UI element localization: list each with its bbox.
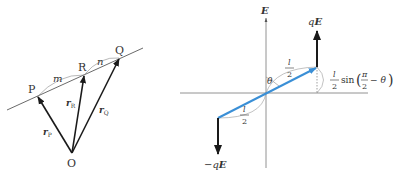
angle-theta: θ (267, 76, 273, 86)
label-r: R (78, 61, 87, 74)
minus-theta: − θ (370, 75, 386, 85)
label-o: O (67, 157, 76, 170)
half-length-top: l 2 (285, 58, 294, 79)
paren-open: ( (356, 72, 361, 88)
diagram-canvas: P R Q O m n rP rR rQ E θ (0, 0, 395, 186)
sin: sin (341, 75, 354, 85)
label-rp: rP (43, 127, 52, 138)
projection-arc (317, 67, 324, 93)
den: 2 (287, 70, 292, 79)
label-q: Q (115, 44, 124, 57)
label-qe-bottom: −qE (204, 159, 227, 170)
position-vector-diagram: P R Q O m n rP rR rQ (7, 44, 143, 170)
inner-den: 2 (362, 82, 367, 91)
dipole-diagram: E θ qE −qE l 2 l 2 (180, 5, 393, 170)
num: l (333, 70, 336, 79)
label-p: P (28, 83, 36, 96)
num: l (243, 105, 246, 114)
field-label: E (260, 5, 269, 16)
label-n: n (97, 56, 103, 67)
label-m: m (53, 73, 62, 84)
label-rr: rR (66, 98, 76, 109)
num: l (288, 58, 291, 67)
inner-num: π (361, 70, 368, 79)
paren-close: ) (388, 72, 393, 88)
den: 2 (332, 82, 337, 91)
den: 2 (242, 117, 247, 126)
projection-formula: l 2 sin ( π 2 − θ ) (330, 70, 393, 91)
label-qe-top: qE (308, 16, 322, 27)
label-rq: rQ (99, 105, 109, 116)
